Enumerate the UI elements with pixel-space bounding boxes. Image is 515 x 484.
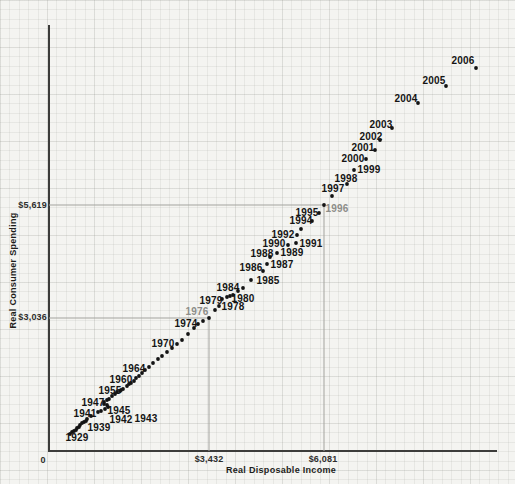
data-point-1989 [275,251,279,255]
year-label-1997: 1997 [321,183,344,194]
data-point-1964 [147,365,151,369]
data-point-1968 [165,350,169,354]
year-label-1941: 1941 [73,408,96,419]
year-label-1939: 1939 [87,422,110,433]
data-point-1975 [201,319,205,323]
chart-canvas: 1929193919411942194319451947195519601964… [0,0,515,484]
y-axis-title: Real Consumer Spending [8,190,21,352]
year-label-1979: 1979 [199,295,222,306]
year-label-1947: 1947 [81,397,104,408]
year-label-1985: 1985 [256,275,279,286]
data-point-1997 [330,194,334,198]
year-label-1987: 1987 [270,259,293,270]
data-point-2000 [364,157,368,161]
year-label-1974: 1974 [174,318,197,329]
year-label-1999: 1999 [357,164,380,175]
x-tick-0: 0 [35,455,51,465]
data-point-1967 [160,354,164,358]
data-point-1966 [156,357,160,361]
data-point-1970 [175,342,179,346]
year-label-2005: 2005 [422,75,445,86]
year-label-2006: 2006 [451,55,474,66]
x-tick-6081: $6,081 [293,454,353,464]
year-label-1964: 1964 [122,363,145,374]
data-point-1984 [241,286,245,290]
year-label-1970: 1970 [151,338,174,349]
data-point-1985 [249,278,253,282]
x-axis-title: Real Disposable Income [196,465,366,475]
year-label-1943: 1943 [134,413,157,424]
year-label-2001: 2001 [351,142,374,153]
year-label-1986: 1986 [239,262,262,273]
consumption-income-scatter-figure: 1929193919411942194319451947195519601964… [0,0,515,484]
year-label-1929: 1929 [65,432,88,443]
year-label-1984: 1984 [216,282,239,293]
data-point-1992 [295,233,299,237]
year-label-1980: 1980 [231,293,254,304]
year-label-2000: 2000 [341,153,364,164]
year-label-1992: 1992 [271,229,294,240]
data-point-2006 [474,66,478,70]
data-point-1976 [207,316,211,320]
year-label-1955: 1955 [98,385,121,396]
year-label-2003: 2003 [369,119,392,130]
year-label-1996: 1996 [325,203,348,214]
x-tick-3432: $3,432 [179,454,239,464]
data-point-1942 [99,409,103,413]
data-point-1949 [107,397,111,401]
year-label-2002: 2002 [359,131,382,142]
year-label-1945: 1945 [107,405,130,416]
data-point-1955 [121,387,125,391]
data-point-1971 [180,338,184,342]
year-label-2004: 2004 [394,93,417,104]
year-label-1995: 1995 [295,207,318,218]
data-point-1961 [137,374,141,378]
year-label-1976: 1976 [185,306,208,317]
year-label-1998: 1998 [334,173,357,184]
data-point-1972 [186,332,190,336]
year-label-1960: 1960 [109,374,132,385]
data-point-1965 [151,361,155,365]
data-point-1977 [213,308,217,312]
data-point-1993 [299,227,303,231]
data-point-1982 [231,293,235,297]
year-label-1991: 1991 [299,238,322,249]
data-point-1991 [294,241,298,245]
year-label-1988: 1988 [250,248,273,259]
data-point-1999 [352,168,356,172]
data-point-1987 [265,262,269,266]
data-point-1990 [286,243,290,247]
